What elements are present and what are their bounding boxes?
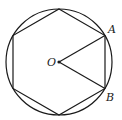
center-point-O bbox=[57, 60, 60, 63]
radius-OB bbox=[59, 62, 105, 89]
hexagon-in-circle-diagram: A B O bbox=[0, 0, 122, 120]
label-O: O bbox=[47, 56, 56, 69]
label-A: A bbox=[107, 23, 116, 36]
label-B: B bbox=[105, 91, 114, 104]
radius-OA bbox=[59, 36, 105, 63]
